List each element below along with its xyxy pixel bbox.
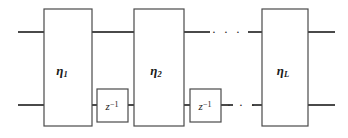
stage-box-1 bbox=[44, 9, 92, 126]
delay-label-2-superscript: −1 bbox=[203, 100, 212, 109]
block-diagram-figure: η1 η2 ηL z−1 z−1 · · · · · · bbox=[0, 0, 348, 138]
ellipsis-top: · · · bbox=[212, 25, 243, 38]
stage-box-group bbox=[44, 9, 308, 126]
delay-label-2: z−1 bbox=[199, 100, 212, 113]
stage-label-L: ηL bbox=[277, 63, 289, 79]
delay-label-1: z−1 bbox=[106, 100, 119, 113]
delay-label-1-superscript: −1 bbox=[110, 100, 119, 109]
ellipsis-bottom: · · · bbox=[227, 98, 258, 111]
stage-label-2-subscript: 2 bbox=[157, 69, 161, 79]
stage-label-2: η2 bbox=[150, 63, 161, 79]
stage-label-1: η1 bbox=[56, 63, 67, 79]
diagram-canvas bbox=[0, 0, 348, 138]
stage-label-1-subscript: 1 bbox=[63, 69, 67, 79]
stage-label-L-subscript: L bbox=[284, 69, 289, 79]
